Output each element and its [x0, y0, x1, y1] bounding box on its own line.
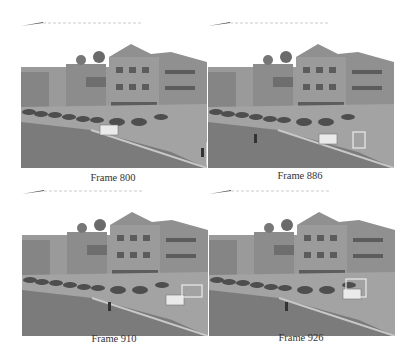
surveillance-frame-image: [209, 190, 395, 336]
van: [100, 125, 118, 135]
frame-caption: Frame 800: [21, 172, 205, 183]
frame-panel: [209, 190, 395, 336]
van: [319, 134, 337, 144]
surveillance-frame-image: [22, 190, 208, 336]
frame-caption: Frame 910: [22, 333, 206, 344]
pedestrian: [285, 302, 288, 311]
pedestrian: [254, 134, 257, 143]
pedestrian: [108, 302, 111, 311]
frame-caption: Frame 886: [208, 170, 392, 181]
frame-caption: Frame 926: [209, 332, 393, 343]
surveillance-frame-image: [208, 22, 394, 168]
surveillance-frame-image: [21, 22, 207, 168]
frame-panel: [208, 22, 394, 168]
frame-panel: [21, 22, 207, 168]
pedestrian: [201, 148, 204, 157]
frame-panel: [22, 190, 208, 336]
van: [166, 295, 184, 305]
